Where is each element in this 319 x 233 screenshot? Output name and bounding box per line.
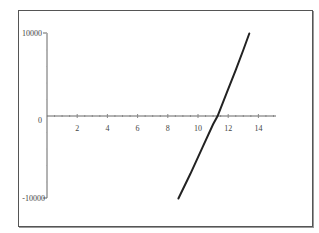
x-tick-label: 2	[75, 124, 79, 133]
y-label-zero: 0	[38, 116, 42, 125]
y-label-bottom: -10000	[22, 194, 45, 203]
x-tick-label: 10	[194, 124, 202, 133]
x-tick-label: 4	[105, 124, 109, 133]
x-tick-label: 12	[224, 124, 232, 133]
chart-plot: 10000 0 -10000 2468101214	[0, 0, 319, 233]
x-tick-label: 8	[166, 124, 170, 133]
x-tick-label: 6	[136, 124, 140, 133]
x-tick-label: 14	[254, 124, 262, 133]
y-label-top: 10000	[22, 29, 42, 38]
